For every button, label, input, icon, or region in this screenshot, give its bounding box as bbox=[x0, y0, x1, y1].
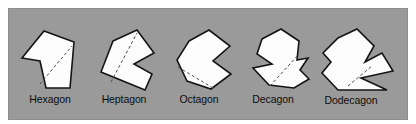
shape-group-dodecagon: Dodecagon bbox=[322, 29, 393, 106]
shape-group-hexagon: Hexagon bbox=[22, 31, 74, 105]
label-hexagon: Hexagon bbox=[29, 93, 71, 105]
shape-group-octagon: Octagon bbox=[177, 30, 231, 105]
octagon-outline bbox=[177, 30, 231, 89]
shape-group-heptagon: Heptagon bbox=[101, 30, 154, 105]
label-dodecagon: Dodecagon bbox=[325, 94, 378, 106]
label-decagon: Decagon bbox=[252, 93, 294, 105]
heptagon-outline bbox=[101, 30, 154, 90]
hexagon-outline bbox=[22, 31, 74, 88]
decagon-outline bbox=[253, 29, 309, 88]
shape-group-decagon: Decagon bbox=[252, 29, 309, 105]
polygon-figure: Hexagon Heptagon Octagon Decagon Dodecag… bbox=[0, 0, 416, 124]
label-heptagon: Heptagon bbox=[102, 93, 147, 105]
dodecagon-outline bbox=[322, 29, 393, 90]
label-octagon: Octagon bbox=[180, 93, 219, 105]
figure-root: Hexagon Heptagon Octagon Decagon Dodecag… bbox=[0, 0, 416, 124]
